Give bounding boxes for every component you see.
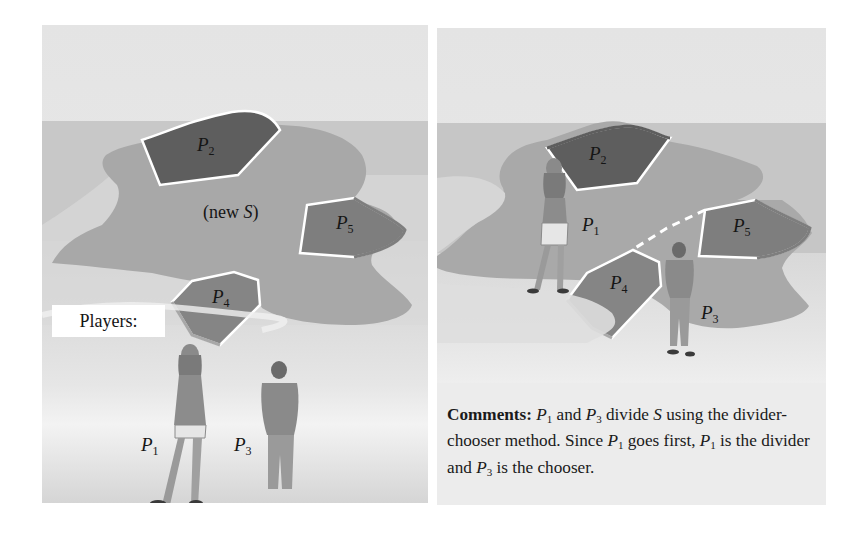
label-p2: P2 (197, 135, 215, 157)
label-p5: P5 (733, 216, 751, 238)
label-p4: P4 (212, 287, 230, 309)
right-panel: P2 P1 P5 P4 P3 Comments: P1 and P3 divid… (437, 28, 826, 505)
label-player-p1: P1 (141, 435, 159, 457)
label-p1: P1 (582, 215, 600, 237)
players-label-box: Players: (52, 305, 165, 337)
comments-heading: Comments: (447, 405, 532, 424)
label-p2: P2 (589, 144, 607, 166)
players-label: Players: (80, 311, 138, 332)
comments-caption: Comments: P1 and P3 divide S using the d… (447, 404, 819, 483)
label-p3: P3 (701, 303, 719, 325)
label-player-p3: P3 (234, 435, 252, 457)
label-new-s: (new S) (203, 203, 258, 221)
left-panel: P2 (new S) P5 P4 Players: P1 P3 (42, 25, 428, 503)
label-p4: P4 (610, 273, 628, 295)
label-p5: P5 (336, 213, 354, 235)
beach-scene-left (42, 25, 428, 503)
